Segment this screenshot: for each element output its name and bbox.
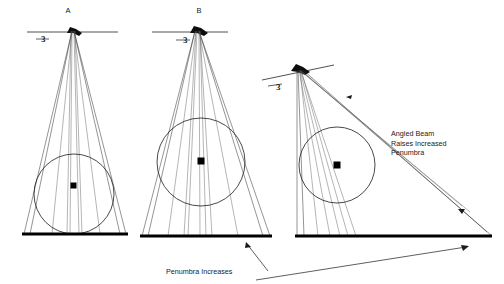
ray-c-penumbra-5 <box>300 71 318 236</box>
leader-arrow-to-panel-c <box>256 247 466 280</box>
panel-label-a: A <box>65 6 70 15</box>
object-circle-a <box>34 154 114 234</box>
ray-a-outer-left <box>24 31 72 234</box>
panel-b: 3 B <box>140 6 272 236</box>
angled-beam-line-3: Penumbra <box>391 148 424 157</box>
ray-b-outer-left-2 <box>148 31 195 236</box>
penumbra-increases-label: Penumbra Increases <box>166 267 233 276</box>
ray-a-inner-right <box>74 31 100 234</box>
ray-b-outer-left <box>142 31 195 236</box>
penumbra-diagram: 3 A <box>0 0 504 284</box>
ray-a-outer-right <box>74 31 126 234</box>
ray-b-inner-right <box>199 31 238 236</box>
penumbra-increases-annotation: Penumbra Increases <box>166 242 469 280</box>
source-marker-c: 3 <box>276 82 281 92</box>
leader-arrowhead-panel-b <box>245 242 251 248</box>
ray-c-penumbra-1 <box>299 70 330 236</box>
panel-c: 3 <box>262 64 492 236</box>
angled-beam-annotation: Angled Beam Raises Increased Penumbra <box>391 129 447 157</box>
object-center-dot-c <box>334 162 341 169</box>
angled-beam-line-1: Angled Beam <box>391 129 434 138</box>
object-center-dot-b <box>198 158 205 165</box>
leader-arrow-to-panel-b <box>247 244 268 271</box>
diagram-canvas: 3 A <box>0 0 504 284</box>
leader-arrowhead-panel-c <box>461 245 469 251</box>
ray-b-penumbra-right-1 <box>199 31 200 236</box>
beam-arrowhead-upper-c <box>346 95 352 99</box>
ray-c-penumbra-4 <box>301 71 356 236</box>
ray-c-penumbra-3 <box>301 70 348 236</box>
ray-b-penumbra-right-2 <box>200 31 206 236</box>
object-center-dot-a <box>71 183 77 189</box>
ray-a-penumbra-right-1 <box>74 31 79 234</box>
ray-a-outer-left-2 <box>30 31 72 234</box>
panel-a: 3 A <box>22 6 128 234</box>
angled-beam-line-2: Raises Increased <box>391 139 447 148</box>
ray-c-penumbra-2 <box>300 70 340 236</box>
panel-label-b: B <box>196 6 201 15</box>
